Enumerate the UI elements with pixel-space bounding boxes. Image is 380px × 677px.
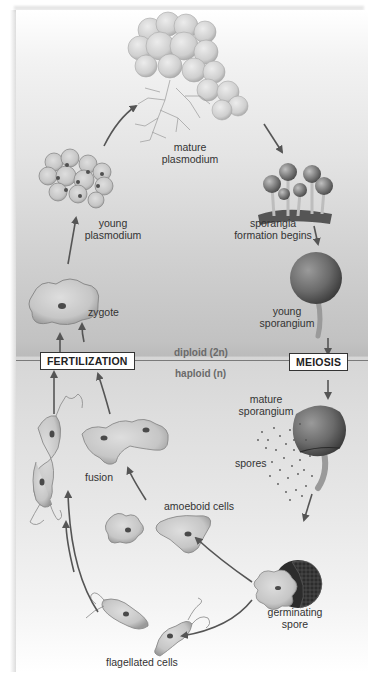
spores-label: spores — [235, 457, 267, 469]
mature-plasmodium-label-line2: plasmodium — [160, 153, 220, 165]
young-sporangium-label-line1: young — [257, 305, 317, 317]
mature-sporangium-label: mature sporangium — [236, 393, 296, 417]
fertilization-stage-box: FERTILIZATION — [40, 352, 135, 370]
flagellated-cells-label: flagellated cells — [106, 656, 178, 668]
mature-plasmodium-label-line1: mature — [160, 141, 220, 153]
mature-plasmodium-illustration — [128, 12, 248, 142]
fusing-flagellated-cells-illustration — [30, 394, 83, 525]
lifecycle-illustration — [0, 0, 380, 677]
mature-sporangium-label-line1: mature — [236, 393, 296, 405]
young-plasmodium-label-line2: plasmodium — [78, 229, 148, 241]
amoeboid-cells-label: amoeboid cells — [164, 500, 234, 512]
young-sporangium-label-line2: sporangium — [257, 317, 317, 329]
zygote-label: zygote — [88, 306, 119, 318]
fusion-label: fusion — [85, 471, 113, 483]
mature-sporangium-label-line2: sporangium — [236, 405, 296, 417]
germinating-spore-illustration — [254, 560, 322, 610]
sporangia-formation-label: sporangia formation begins — [228, 217, 318, 241]
sporangia-formation-label-line1: sporangia — [228, 217, 318, 229]
amoeboid-cells-illustration — [105, 513, 210, 553]
germinating-spore-label-line2: spore — [260, 618, 330, 630]
germinating-spore-label: germinating spore — [260, 606, 330, 630]
flagellated-cells-illustration — [86, 593, 210, 656]
sporangia-formation-label-line2: formation begins — [228, 229, 318, 241]
meiosis-stage-box: MEIOSIS — [289, 353, 348, 371]
fusion-cells-illustration — [82, 419, 168, 464]
sporangia-formation-illustration — [258, 163, 333, 225]
diploid-zone-label: diploid (2n) — [174, 347, 228, 358]
young-plasmodium-illustration — [39, 149, 113, 208]
mature-sporangium-illustration — [293, 405, 346, 488]
germinating-spore-label-line1: germinating — [260, 606, 330, 618]
young-plasmodium-label: young plasmodium — [78, 217, 148, 241]
young-sporangium-label: young sporangium — [257, 305, 317, 329]
mature-plasmodium-label: mature plasmodium — [160, 141, 220, 165]
haploid-zone-label: haploid (n) — [175, 368, 226, 379]
young-plasmodium-label-line1: young — [78, 217, 148, 229]
